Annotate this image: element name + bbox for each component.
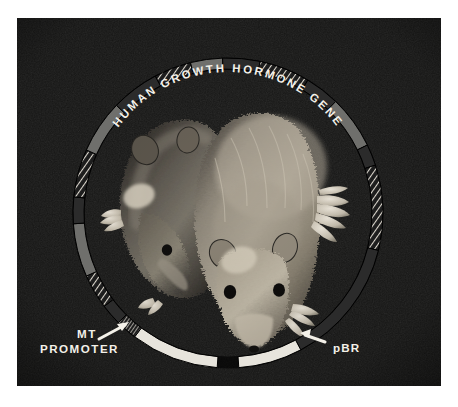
photograph-plate: HUMAN GROWTH HORMONE GENE MT PROMOTER pB… bbox=[17, 18, 441, 386]
seg-dark-left bbox=[73, 197, 85, 224]
pbr-label: pBR bbox=[333, 341, 360, 354]
figure-root: HUMAN GROWTH HORMONE GENE MT PROMOTER pB… bbox=[0, 0, 458, 407]
photograph-and-diagram: HUMAN GROWTH HORMONE GENE MT PROMOTER pB… bbox=[17, 18, 441, 386]
mt-promoter-label-line1: MT bbox=[77, 327, 97, 340]
mt-promoter-label-line2: PROMOTER bbox=[40, 342, 119, 355]
